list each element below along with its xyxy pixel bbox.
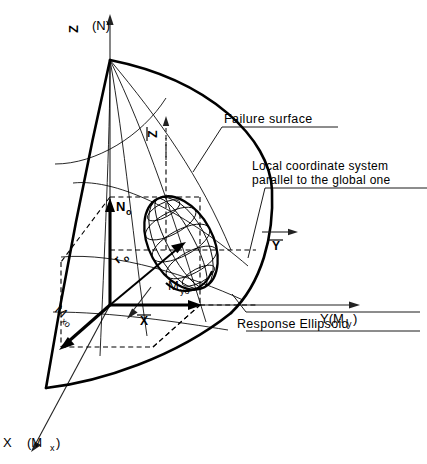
vector-label-myo-sub: yo [180,286,190,296]
axis-label-y-close: ) [353,311,357,326]
annotation-response-ellipsoid: Response Ellipsoid [237,317,349,331]
axis-label-x: X [3,435,12,450]
vector-n0 [105,198,115,305]
annotation-failure-surface: Failure surface [224,112,313,126]
vector-label-myo-group: M yo [168,278,190,296]
annotation-local-coords-line1: Local coordinate system [252,159,388,173]
failure-surface-outline [46,60,272,388]
vector-myo [110,300,202,310]
axis-zbar-arrowhead [163,116,169,126]
axis-label-x-sub: x [50,443,55,453]
annotation-local-coords-line2: parallel to the global one [252,173,391,187]
axis-label-zbar: Z [146,130,160,137]
global-axes-group [31,14,360,452]
axis-label-z: Z [66,25,81,33]
hoop-mid [61,256,243,300]
leader-failure-surface [193,127,222,172]
failure-surface-figure: Z (N) Y(M y ) X (M x ) Z Y X N o r o M y… [0,0,427,464]
failure-surface-bottom-edge [46,313,231,388]
axis-label-xbar: X [140,314,148,328]
hoop-upper [73,183,248,266]
axis-label-x-paren-close: ) [56,435,60,450]
box-right-rise [153,305,200,347]
axis-label-ybar-group: Y [269,239,283,253]
axis-label-z-paren: (N) [92,18,110,33]
leader-local-coords [248,188,265,258]
axis-label-ybar: Y [272,239,280,253]
box-depth-left [61,197,110,262]
component-vectors-group [59,198,202,350]
vector-label-myo: M [168,278,179,293]
axis-label-x-paren-open: (M [27,435,42,450]
vector-label-n0-sub: o [126,207,132,217]
vector-label-n0: N [116,199,125,214]
axis-label-xbar-group: X [137,314,151,328]
axis-label-zbar-group: Z [146,127,160,141]
annotation-leaders [193,127,427,331]
axis-ybar-arrowhead [288,229,298,235]
vector-label-mxo-group: M xo [50,302,78,330]
axis-y-arrowhead [349,301,360,308]
axis-ybar [262,229,298,235]
